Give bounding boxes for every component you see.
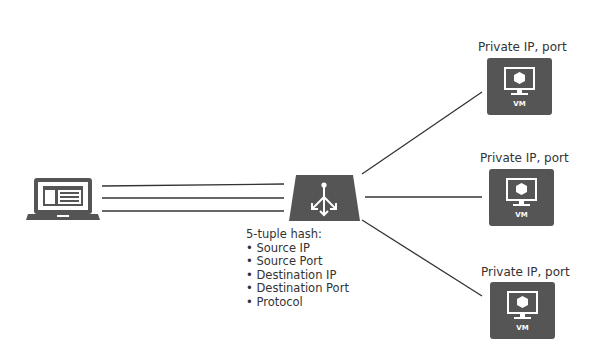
- laptop-icon: [26, 178, 100, 220]
- lb-vm3-line: [362, 220, 482, 296]
- load-balancer-icon: [289, 175, 360, 221]
- hash-fields: Source IP Source Port Destination IP Des…: [246, 242, 349, 310]
- vm1-label: Private IP, port: [478, 40, 567, 54]
- hash-field: Destination Port: [246, 282, 349, 296]
- vm3-icon: VM: [490, 282, 555, 339]
- vm2-label: Private IP, port: [480, 151, 569, 165]
- hash-title: 5-tuple hash:: [246, 228, 349, 242]
- vm1-icon: VM: [487, 58, 552, 115]
- hash-field: Protocol: [246, 296, 349, 310]
- client-lb-line-1: [102, 184, 284, 186]
- hash-info: 5-tuple hash: Source IP Source Port Dest…: [246, 228, 349, 310]
- vm2-icon: VM: [489, 169, 554, 226]
- vm3-text: VM: [490, 324, 555, 332]
- hash-field: Source Port: [246, 255, 349, 269]
- vm1-text: VM: [487, 100, 552, 108]
- vm3-label: Private IP, port: [481, 265, 570, 279]
- lb-vm1-line: [362, 92, 482, 174]
- hash-field: Source IP: [246, 242, 349, 256]
- hash-field: Destination IP: [246, 269, 349, 283]
- vm2-text: VM: [489, 211, 554, 219]
